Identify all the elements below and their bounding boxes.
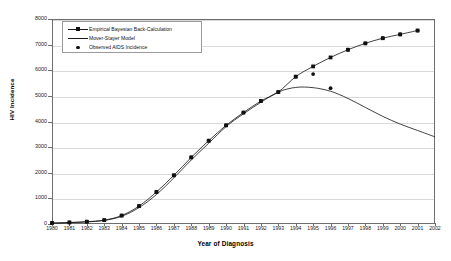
x-tick-mark [313,223,314,226]
x-tick-mark [418,223,419,226]
y-tick-mark [48,173,52,174]
x-tick-mark [331,223,332,226]
legend-label: Empirical Bayesian Back-Calculation [89,27,172,32]
legend-item: Mover-Stayer Model [67,34,197,43]
x-tick-mark [52,223,53,226]
x-tick-mark [87,223,88,226]
x-tick-mark [244,223,245,226]
x-tick-mark [122,223,123,226]
x-tick-mark [156,223,157,226]
legend-label: Mover-Stayer Model [89,36,135,41]
x-tick-mark [348,223,349,226]
legend-key-line-icon [67,34,89,43]
y-tick-mark [48,96,52,97]
y-tick-label: 2000 [0,170,47,175]
x-tick-label: 2002 [420,226,450,231]
x-tick-mark [383,223,384,226]
x-tick-mark [191,223,192,226]
x-tick-mark [261,223,262,226]
y-tick-label: 7000 [0,42,47,47]
y-tick-mark [48,198,52,199]
x-tick-mark [365,223,366,226]
legend: Empirical Bayesian Back-CalculationMover… [62,21,202,53]
y-tick-mark [48,19,52,20]
x-tick-mark [139,223,140,226]
x-tick-mark [174,223,175,226]
legend-key-dot-icon [67,43,89,52]
legend-item: Observed AIDS Incidence [67,43,197,52]
legend-key-line-square-icon [67,25,89,34]
y-tick-mark [48,70,52,71]
y-tick-mark [48,147,52,148]
x-tick-mark [104,223,105,226]
legend-label: Observed AIDS Incidence [89,45,147,50]
x-tick-mark [296,223,297,226]
legend-item: Empirical Bayesian Back-Calculation [67,25,197,34]
x-axis-ticks: 1980198119821983198419851986198719881989… [0,226,451,238]
x-tick-mark [435,223,436,226]
y-tick-mark [48,122,52,123]
x-tick-mark [400,223,401,226]
x-axis-title: Year of Diagnosis [0,240,451,247]
y-tick-label: 1000 [0,195,47,200]
y-tick-label: 3000 [0,144,47,149]
x-tick-mark [69,223,70,226]
y-tick-label: 8000 [0,16,47,21]
x-tick-mark [209,223,210,226]
hiv-incidence-chart: 010002000300040005000600070008000 HIV In… [0,0,451,261]
y-tick-mark [48,45,52,46]
x-tick-mark [226,223,227,226]
y-axis-title: HIV Incidence [8,55,15,145]
x-tick-mark [278,223,279,226]
